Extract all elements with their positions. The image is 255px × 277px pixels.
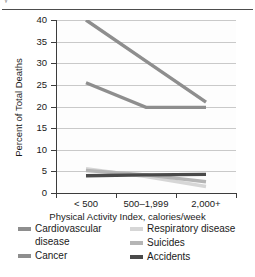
y-tick-label: 35 (36, 37, 47, 47)
x-tick-label: 500–1,999 (116, 198, 176, 209)
legend-item[interactable]: Cardiovascular disease (18, 222, 123, 248)
legend-swatch-icon (18, 254, 31, 258)
legend-swatch-icon (130, 241, 143, 245)
legend-label: Accidents (147, 250, 190, 263)
legend-swatch-icon (130, 227, 143, 231)
legend-swatch-icon (130, 255, 143, 259)
y-tick-label: 10 (36, 145, 47, 155)
y-axis-title: Percent of Total Deaths (13, 33, 24, 183)
chart-legend: Cardiovascular diseaseCancer Respiratory… (0, 222, 255, 277)
series-line (86, 83, 206, 108)
x-axis-separator (236, 194, 237, 198)
legend-label: Cardiovascular disease (35, 222, 123, 248)
y-tick-label: 40 (36, 15, 47, 25)
legend-item[interactable]: Suicides (130, 236, 255, 249)
series-lines-group (56, 20, 236, 193)
legend-item[interactable]: Cancer (18, 249, 123, 262)
legend-label: Respiratory disease (147, 222, 235, 235)
header-divider (2, 9, 253, 10)
x-tick-label: 2,000+ (176, 198, 236, 209)
y-tick-label: 25 (36, 80, 47, 90)
plot-wrapper: 0510152025303540 Percent of Total Deaths… (0, 14, 255, 200)
legend-column-right: Respiratory diseaseSuicidesAccidents (130, 222, 255, 264)
x-axis-title: Physical Activity Index, calories/week (0, 211, 255, 222)
legend-label: Cancer (35, 249, 67, 262)
series-line (86, 174, 206, 175)
y-tick-label: 15 (36, 123, 47, 133)
chart-figure: y 0510152025303540 Percent of Total Deat… (0, 0, 255, 277)
legend-swatch-icon (18, 227, 31, 231)
y-tick-label: 30 (36, 58, 47, 68)
x-axis-line (56, 193, 237, 194)
legend-item[interactable]: Respiratory disease (130, 222, 255, 235)
legend-label: Suicides (147, 236, 185, 249)
legend-item[interactable]: Accidents (130, 250, 255, 263)
legend-column-left: Cardiovascular diseaseCancer (18, 222, 123, 263)
x-tick-label: < 500 (56, 198, 116, 209)
y-tick-label: 20 (36, 102, 47, 112)
y-tick-label: 5 (42, 166, 47, 176)
top-text-fragment: y (4, 0, 8, 3)
y-tick-label: 0 (42, 188, 47, 198)
